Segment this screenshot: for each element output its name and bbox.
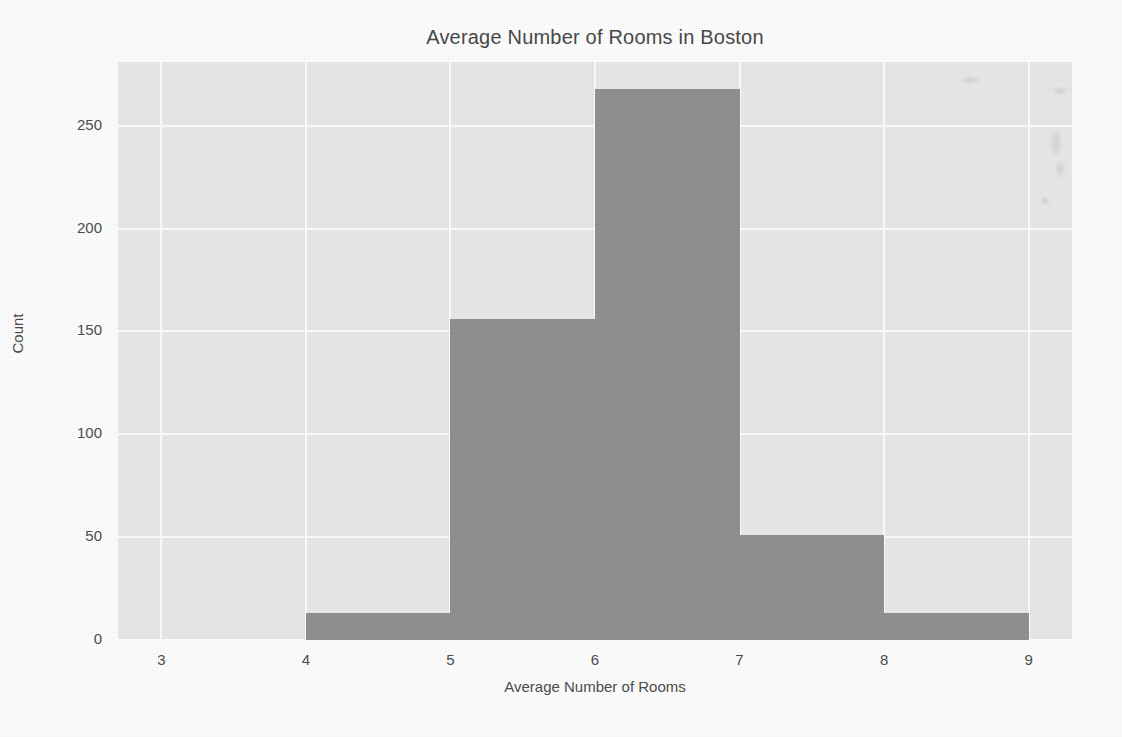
histogram-bar (595, 89, 740, 640)
x-axis-tick-label: 3 (141, 651, 181, 668)
chart-title: Average Number of Rooms in Boston (118, 26, 1072, 49)
x-axis-tick-label: 8 (864, 651, 904, 668)
y-axis-tick-label: 100 (44, 424, 102, 441)
gridline-vertical (1028, 62, 1030, 640)
gridline-vertical (305, 62, 307, 640)
x-axis-label: Average Number of Rooms (118, 678, 1072, 695)
x-axis-tick-label: 4 (286, 651, 326, 668)
y-axis-tick-label: 200 (44, 219, 102, 236)
x-axis-tick-label: 9 (1009, 651, 1049, 668)
histogram-bar (450, 319, 595, 640)
histogram-bar (884, 613, 1029, 640)
y-axis-tick-label: 150 (44, 321, 102, 338)
y-axis-tick-label: 0 (44, 630, 102, 647)
gridline-vertical (160, 62, 162, 640)
x-axis-tick-label: 5 (430, 651, 470, 668)
chart-figure: Average Number of Rooms in Boston Count … (0, 0, 1122, 737)
y-axis-label: Count (9, 313, 26, 353)
y-axis-tick-label: 50 (44, 527, 102, 544)
histogram-bar (740, 535, 885, 640)
plot-area (118, 62, 1072, 640)
y-axis-tick-label: 250 (44, 116, 102, 133)
histogram-bar (306, 613, 451, 640)
x-axis-tick-label: 6 (575, 651, 615, 668)
x-axis-tick-label: 7 (720, 651, 760, 668)
